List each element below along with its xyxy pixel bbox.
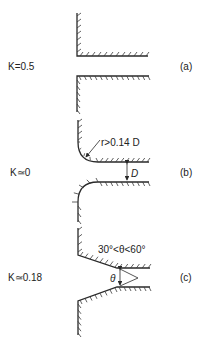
hatch-mark — [90, 255, 93, 259]
angle-label: θ — [110, 273, 116, 284]
panel-b-k-label: K≃0 — [10, 167, 31, 178]
panel-a-lower-wall — [77, 76, 150, 114]
hatch-mark — [85, 298, 87, 302]
panel-c-label: (c) — [180, 272, 192, 283]
panel-a-k-label: K=0.5 — [8, 61, 35, 72]
hatch-mark — [80, 252, 83, 256]
hatch-mark — [95, 295, 97, 299]
hatch-mark — [85, 254, 88, 258]
panel-c-lower-wall — [78, 287, 151, 337]
panel-a-label: (a) — [180, 61, 192, 72]
hatch-mark — [115, 263, 118, 267]
panel-c: θ 30°<θ<60° K≃0.18 (c) — [8, 227, 192, 337]
angle-extension-lines — [120, 269, 138, 286]
hatch-mark — [110, 261, 113, 265]
hatch-mark — [105, 260, 108, 264]
hatch-mark — [80, 148, 82, 150]
hatch-mark — [100, 258, 103, 262]
panel-a: K=0.5 (a) — [8, 13, 192, 114]
hatch-mark — [100, 293, 102, 297]
hatch-mark — [95, 257, 98, 261]
hatch-mark — [105, 291, 107, 295]
radius-arrow — [86, 140, 100, 157]
pipe-entrance-diagram: K=0.5 (a) r>0.14 D D K≃0 (b) θ 30°<θ — [0, 0, 211, 344]
hatch-mark — [84, 153, 85, 156]
panel-b: r>0.14 D D K≃0 (b) — [10, 119, 192, 224]
angle-range-label: 30°<θ<60° — [98, 244, 146, 255]
panel-b-label: (b) — [180, 167, 192, 178]
diameter-label: D — [131, 168, 138, 179]
hatch-mark — [115, 288, 117, 292]
hatch-mark — [110, 290, 112, 294]
hatch-mark — [90, 297, 92, 301]
panel-c-k-label: K≃0.18 — [8, 272, 43, 283]
radius-label: r>0.14 D — [101, 137, 140, 148]
panel-b-lower-wall — [72, 178, 150, 224]
panel-a-upper-wall — [77, 13, 149, 56]
